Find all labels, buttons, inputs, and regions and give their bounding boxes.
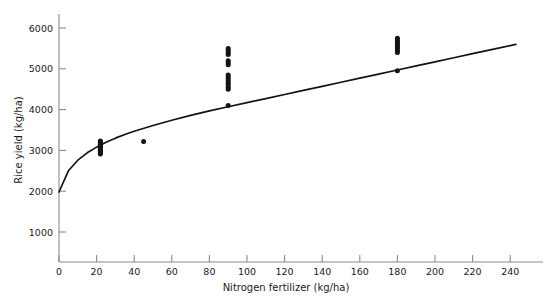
x-tick-label: 200 (426, 266, 444, 277)
rice-yield-nitrogen-figure: 1000200030004000500060000204060801001201… (0, 0, 549, 301)
x-tick-label: 100 (238, 266, 256, 277)
x-tick-label: 240 (501, 266, 519, 277)
fit-curve-group (59, 44, 516, 192)
x-tick-label: 220 (464, 266, 482, 277)
x-axis-title: Nitrogen fertilizer (kg/ha) (223, 282, 350, 293)
data-points-group (98, 36, 400, 157)
y-tick-label: 3000 (29, 145, 53, 156)
x-tick-label: 120 (276, 266, 294, 277)
data-point (98, 152, 103, 157)
fitted-response-curve (59, 44, 516, 192)
y-tick-label: 1000 (29, 227, 53, 238)
tick-marks-group (59, 28, 510, 262)
y-tick-label: 5000 (29, 63, 53, 74)
y-tick-label: 2000 (29, 186, 53, 197)
y-tick-label: 4000 (29, 104, 53, 115)
x-tick-label: 0 (56, 266, 62, 277)
x-tick-label: 160 (351, 266, 369, 277)
x-tick-label: 140 (313, 266, 331, 277)
data-point (141, 139, 146, 144)
data-point (226, 52, 231, 57)
axes-group (59, 14, 543, 262)
y-axis-title: Rice yield (kg/ha) (13, 96, 24, 184)
data-point (395, 68, 400, 73)
x-tick-label: 60 (166, 266, 178, 277)
x-tick-label: 40 (128, 266, 140, 277)
x-tick-label: 80 (203, 266, 215, 277)
y-tick-label: 6000 (29, 23, 53, 34)
x-tick-label: 20 (91, 266, 103, 277)
data-point (226, 87, 231, 92)
data-point (226, 62, 231, 67)
data-point (226, 103, 231, 108)
scatter-plot-canvas: 1000200030004000500060000204060801001201… (0, 0, 549, 301)
data-point (395, 50, 400, 55)
x-tick-label: 180 (388, 266, 406, 277)
